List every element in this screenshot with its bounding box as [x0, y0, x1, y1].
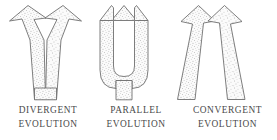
- caption-row: DIVERGENT EVOLUTION PARALLEL EVOLUTION C…: [0, 104, 277, 131]
- parallel-right-arrowhead: [135, 6, 149, 21]
- caption-convergent-line2: EVOLUTION: [178, 118, 277, 132]
- parallel-stem: [116, 81, 132, 100]
- parallel-u-inner-notch: [114, 21, 135, 77]
- diverging-arrows-v-icon: [10, 6, 82, 100]
- caption-parallel: PARALLEL EVOLUTION: [94, 104, 178, 131]
- caption-divergent: DIVERGENT EVOLUTION: [2, 104, 94, 131]
- divergent-right-arrow: [45, 6, 82, 100]
- converging-arrows-lambda-icon: [178, 6, 246, 100]
- caption-divergent-line2: EVOLUTION: [2, 118, 94, 132]
- parallel-arrows-u-icon: [100, 6, 148, 100]
- caption-divergent-line1: DIVERGENT: [2, 104, 94, 118]
- convergent-right-arrow: [208, 6, 245, 100]
- caption-convergent-line1: CONVERGENT: [178, 104, 277, 118]
- divergent-left-arrow: [10, 6, 47, 100]
- caption-convergent: CONVERGENT EVOLUTION: [178, 104, 277, 131]
- parallel-left-arrowhead: [100, 6, 114, 21]
- caption-parallel-line2: EVOLUTION: [94, 118, 178, 132]
- evolution-patterns-figure: DIVERGENT EVOLUTION PARALLEL EVOLUTION C…: [0, 0, 277, 140]
- divergent-stem: [35, 88, 57, 100]
- caption-parallel-line1: PARALLEL: [94, 104, 178, 118]
